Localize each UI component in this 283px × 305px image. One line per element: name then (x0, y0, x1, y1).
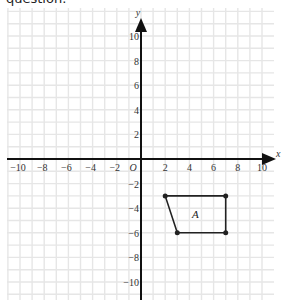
vertex-point (223, 230, 228, 235)
y-tick-label: −6 (128, 228, 139, 239)
y-tick-label: 8 (134, 56, 139, 67)
y-tick-label: −8 (128, 252, 139, 263)
x-tick-label: −8 (37, 162, 48, 173)
x-tick-label: 10 (257, 162, 267, 173)
y-tick-label: −10 (123, 277, 139, 288)
x-tick-label: −4 (85, 162, 96, 173)
vertex-point (223, 193, 228, 198)
x-tick-label: −6 (61, 162, 72, 173)
y-tick-label: 10 (129, 31, 139, 42)
origin-label: O (129, 162, 136, 173)
axes: xy (7, 7, 281, 300)
shape-label: A (191, 208, 199, 220)
y-tick-label: 2 (134, 129, 139, 140)
x-tick-label: 4 (187, 162, 192, 173)
y-axis-arrow-icon (135, 18, 147, 32)
y-tick-label: 6 (134, 80, 139, 91)
vertex-point (163, 193, 168, 198)
x-tick-label: 6 (211, 162, 216, 173)
y-tick-label: −4 (128, 203, 139, 214)
x-tick-label: 2 (163, 162, 168, 173)
vertex-point (175, 230, 180, 235)
x-tick-label: −10 (10, 162, 26, 173)
coordinate-grid: xy −10−8−6−4−2246810108642−2−4−6−8−10O A (0, 0, 283, 305)
y-axis-label: y (135, 7, 141, 18)
y-tick-label: −2 (128, 179, 139, 190)
x-tick-label: 8 (235, 162, 240, 173)
x-axis-label: x (275, 148, 281, 159)
y-tick-label: 4 (134, 105, 139, 116)
shapes: A (163, 193, 229, 235)
x-tick-label: −2 (109, 162, 120, 173)
